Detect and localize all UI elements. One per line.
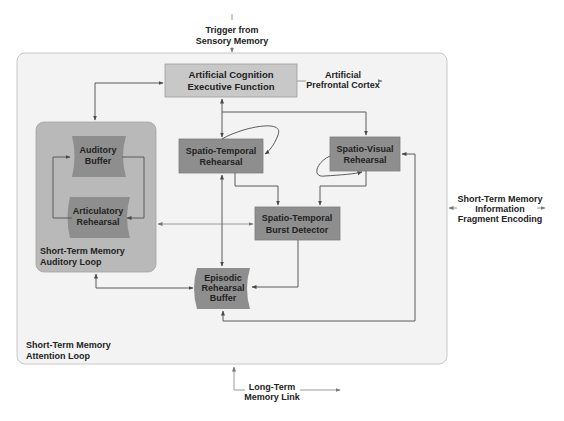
long-term-memory-link: Long-Term Memory Link [234,367,340,402]
spatio-temporal-label-2: Rehearsal [199,157,242,167]
episodic-label-1: Episodic [204,273,242,283]
fragment-label-2: Information [475,204,525,214]
working-memory-diagram: Trigger from Sensory Memory Artificial C… [0,0,564,421]
fragment-label-1: Short-Term Memory [458,194,543,204]
executive-function-node: Artificial Cognition Executive Function [165,64,297,97]
executive-label-2: Executive Function [187,81,274,92]
spatio-visual-label-2: Rehearsal [343,155,386,165]
episodic-label-2: Rehearsal [201,283,244,293]
auditory-loop-label-1: Short-Term Memory [40,246,125,256]
attention-loop-label-1: Short-Term Memory [26,340,111,350]
executive-label-1: Artificial Cognition [189,69,274,80]
auditory-loop-box: Auditory Buffer Articulatory Rehearsal S… [36,122,156,272]
auditory-buffer-label-1: Auditory [80,145,117,155]
articulatory-label-2: Rehearsal [76,217,119,227]
articulatory-label-1: Articulatory [73,206,124,216]
spatio-temporal-rehearsal-node: Spatio-Temporal Rehearsal [179,139,263,173]
long-term-label-1: Long-Term [249,382,295,392]
burst-detector-label-1: Spatio-Temporal [262,213,332,223]
prefrontal-label-1: Artificial [325,70,361,80]
burst-detector-label-2: Burst Detector [266,225,329,235]
spatio-temporal-label-1: Spatio-Temporal [186,146,256,156]
trigger-label-1: Trigger from [205,25,258,35]
spatio-visual-label-1: Spatio-Visual [337,144,394,154]
auditory-buffer-label-2: Buffer [85,156,112,166]
long-term-label-2: Memory Link [244,392,301,402]
burst-detector-node: Spatio-Temporal Burst Detector [255,207,340,240]
episodic-label-3: Buffer [210,293,237,303]
fragment-label-3: Fragment Encoding [458,214,543,224]
trigger-input: Trigger from Sensory Memory [196,14,269,52]
auditory-loop-label-2: Auditory Loop [40,257,102,267]
trigger-label-2: Sensory Memory [196,36,269,46]
attention-loop-label-2: Attention Loop [26,351,90,361]
prefrontal-label-2: Prefrontal Cortex [306,80,380,90]
episodic-buffer-node: Episodic Rehearsal Buffer [194,268,250,309]
fragment-encoding-io: Short-Term Memory Information Fragment E… [449,194,545,224]
spatio-visual-rehearsal-node: Spatio-Visual Rehearsal [330,137,400,171]
